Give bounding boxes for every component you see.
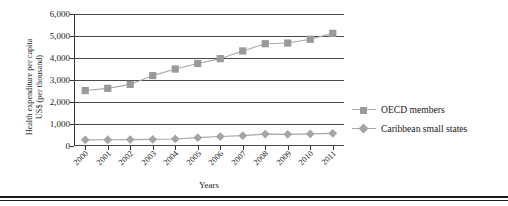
chart-figure: Health expenditure per capita US$ (per t…: [0, 0, 508, 206]
data-point-diamond-marker: [103, 135, 112, 144]
data-point-diamond-marker: [171, 135, 180, 144]
legend-label: OECD members: [376, 104, 445, 115]
data-point-diamond-marker: [283, 130, 292, 139]
x-axis-tick-labels: 2000200120022003200420052006200720082009…: [74, 146, 344, 180]
y-axis-tick-label: 6,000: [34, 10, 70, 19]
x-axis-tick-label: 2001: [95, 149, 113, 167]
data-point-square-marker: [194, 60, 201, 67]
chart-legend: OECD members Caribbean small states: [352, 100, 504, 138]
data-point-square-marker: [307, 36, 314, 43]
series-line: [85, 133, 333, 139]
data-point-square-marker: [149, 72, 156, 79]
y-axis-tick-label: 4,000: [34, 54, 70, 63]
data-point-square-marker: [127, 81, 134, 88]
plot-area: [74, 14, 344, 146]
x-axis-tick-label: 2007: [230, 149, 248, 167]
y-axis-tick-label: 3,000: [34, 76, 70, 85]
x-axis-tick-label: 2010: [297, 149, 315, 167]
x-axis-tick-label: 2009: [275, 149, 293, 167]
x-axis-tick-label: 2005: [185, 149, 203, 167]
x-axis-tick-label: 2004: [162, 149, 180, 167]
data-point-square-marker: [217, 55, 224, 62]
footer-rule-thin: [0, 200, 508, 201]
data-point-diamond-marker: [193, 133, 202, 142]
data-point-square-marker: [262, 40, 269, 47]
legend-diamond-marker-icon: [352, 123, 376, 135]
data-point-diamond-marker: [261, 130, 270, 139]
y-axis-tick-label: 0: [34, 142, 70, 151]
data-point-diamond-marker: [238, 131, 247, 140]
series-2: [81, 129, 337, 144]
x-axis-tick-label: 2008: [252, 149, 270, 167]
data-point-diamond-marker: [81, 135, 90, 144]
data-point-diamond-marker: [328, 129, 337, 138]
data-point-square-marker: [172, 65, 179, 72]
x-axis-title: Years: [74, 180, 344, 190]
x-axis-tick-label: 2006: [207, 149, 225, 167]
y-axis-tick-labels: 01,0002,0003,0004,0005,0006,000: [34, 14, 70, 146]
data-point-square-marker: [239, 47, 246, 54]
legend-item-caribbean-small-states[interactable]: Caribbean small states: [352, 119, 504, 138]
x-axis-tick-label: 2011: [320, 149, 338, 167]
data-point-diamond-marker: [306, 130, 315, 139]
legend-item-oecd-members[interactable]: OECD members: [352, 100, 504, 119]
data-point-diamond-marker: [126, 135, 135, 144]
x-axis-tick-label: 2002: [117, 149, 135, 167]
data-point-square-marker: [104, 85, 111, 92]
legend-label: Caribbean small states: [376, 123, 467, 134]
series-plot: [74, 14, 344, 146]
y-axis-tick-label: 1,000: [34, 120, 70, 129]
y-axis-tick-label: 5,000: [34, 32, 70, 41]
x-axis-tick-label: 2003: [140, 149, 158, 167]
y-axis-tick-label: 2,000: [34, 98, 70, 107]
data-point-square-marker: [284, 39, 291, 46]
data-point-diamond-marker: [216, 132, 225, 141]
data-point-diamond-marker: [148, 135, 157, 144]
data-point-square-marker: [82, 87, 89, 94]
series-line: [85, 33, 333, 90]
legend-square-marker-icon: [352, 104, 376, 116]
series-1: [82, 30, 337, 94]
x-axis-tick-label: 2000: [72, 149, 90, 167]
footer-rule-thick: [0, 196, 508, 198]
data-point-square-marker: [329, 30, 336, 37]
